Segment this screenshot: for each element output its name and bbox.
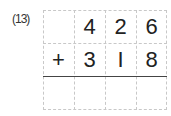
problem-number: (13) — [12, 12, 29, 26]
addition-grid: 4 2 6 + 3 I 8 — [43, 10, 167, 110]
digit-cell: 6 — [136, 10, 167, 43]
digit-cell: 4 — [74, 10, 105, 43]
digit-cell: 3 — [74, 43, 105, 76]
answer-cell[interactable] — [136, 76, 167, 109]
plus-sign: + — [43, 43, 74, 76]
answer-cell[interactable] — [105, 76, 136, 109]
digit-cell: I — [105, 43, 136, 76]
digit-cell: 2 — [105, 10, 136, 43]
grid-line — [43, 109, 167, 110]
digit-cell — [43, 10, 74, 43]
answer-cell[interactable] — [74, 76, 105, 109]
answer-cell[interactable] — [43, 76, 74, 109]
digit-cell: 8 — [136, 43, 167, 76]
